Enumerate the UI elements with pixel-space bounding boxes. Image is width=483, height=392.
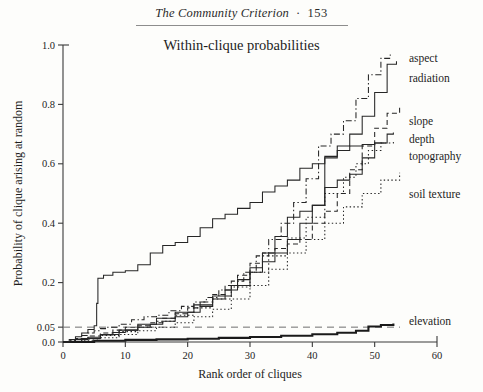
x-axis-title: Rank order of cliques [198,367,302,381]
x-tick-label-30: 30 [245,350,256,361]
line-chart: 0.00.050.20.40.60.81.00102030405060 aspe… [0,30,483,392]
y-tick-label-0.0: 0.0 [42,337,55,348]
x-tick-label-50: 50 [369,350,380,361]
running-head-title: The Community Criterion [155,6,289,20]
running-head: The Community Criterion·153 [0,6,483,21]
series-label-aspect: aspect [409,52,439,65]
x-tick-label-20: 20 [182,350,193,361]
x-tick-label-60: 60 [432,350,443,361]
series-curve-soil-texture [63,173,400,342]
y-tick-label-0.8: 0.8 [42,99,55,110]
series-curve-depth [63,133,393,342]
x-tick-label-0: 0 [60,350,65,361]
y-tick-label-0.05: 0.05 [37,322,55,333]
series-label-topography: topography [409,150,462,163]
series-label-slope: slope [409,115,433,128]
series-label-radiation: radiation [409,72,450,84]
series-curve-topography [63,140,393,342]
x-tick-label-10: 10 [120,350,131,361]
chart-axes: 0.00.050.20.40.60.81.00102030405060 [37,40,443,361]
book-page: The Community Criterion·153 Within-cliqu… [0,0,483,392]
y-tick-label-1.0: 1.0 [42,40,55,51]
series-curve-slope [63,106,400,342]
series-label-elevation: elevation [409,315,451,327]
series-curve-aspect [63,52,390,342]
y-axis-title: Probability of clique arising at random [11,100,25,286]
y-tick-label-0.4: 0.4 [42,218,56,229]
series-label-depth: depth [409,133,435,146]
series-curves [63,52,400,342]
series-labels: aspectradiationslopedepthtopographysoil … [409,52,462,326]
y-tick-label-0.2: 0.2 [42,277,55,288]
running-head-separator: · [289,6,307,20]
y-tick-label-0.6: 0.6 [42,158,55,169]
series-curve-radiation [63,61,396,342]
header-rule [136,25,348,26]
series-label-soil-texture: soil texture [409,188,460,200]
x-tick-label-40: 40 [307,350,318,361]
series-curve-early-riser-solid [63,142,384,342]
page-number: 153 [307,6,327,20]
figure-container: Within-clique probabilities 0.00.050.20.… [0,30,483,392]
